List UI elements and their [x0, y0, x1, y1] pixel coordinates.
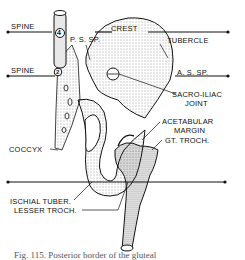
label-gt-troch: GT. TROCH. [165, 137, 209, 145]
marker-2: 2 [56, 68, 60, 76]
label-ischial-tuber: ISCHIAL TUBER. [10, 198, 71, 206]
label-acetabular: ACETABULAR [162, 118, 213, 126]
label-psp: P. S. SP. [70, 36, 100, 44]
femur [115, 143, 158, 250]
label-joint: JOINT [185, 100, 208, 108]
label-sacroiliac: SACRO-ILIAC [172, 91, 222, 99]
marker-4: 4 [57, 29, 61, 37]
label-spine-top: SPINE [11, 23, 35, 31]
label-tubercle: TUBERCLE [167, 37, 209, 45]
label-coccyx: COCCYX [9, 146, 42, 154]
label-margin: MARGIN [174, 127, 205, 135]
label-spine-mid: SPINE [11, 67, 35, 75]
figure-caption: Fig. 115. Posterior border of the glutea… [14, 250, 156, 260]
label-lesser-troch: LESSER TROCH. [14, 207, 77, 215]
label-asp: A. S. SP. [177, 69, 208, 77]
label-crest: CREST [111, 25, 137, 33]
spine-marker [54, 11, 66, 76]
